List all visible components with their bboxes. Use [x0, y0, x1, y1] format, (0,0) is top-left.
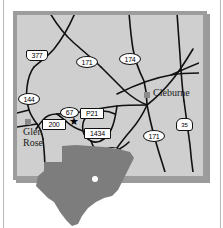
texas-locator-dot [92, 176, 98, 182]
site-star-marker[interactable]: ★ [69, 116, 79, 127]
highway-label-text: P21 [86, 110, 98, 117]
highway-label-text: 171 [81, 59, 92, 66]
highway-label-text: 1434 [90, 130, 105, 137]
highway-label-text: 200 [48, 121, 59, 128]
highway-label-text: 171 [148, 133, 159, 140]
highway-label-sh-171-north[interactable]: 171 [76, 56, 98, 68]
city-marker-cleburne[interactable] [144, 92, 150, 98]
city-label-glen-rose: Glen Rose [23, 126, 43, 148]
city-marker-glen-rose[interactable] [25, 119, 31, 125]
highway-label-us-377[interactable]: 377 [26, 50, 48, 61]
highway-label-text: 144 [23, 96, 34, 103]
highway-label-fm-1434[interactable]: 1434 [84, 128, 111, 139]
road-i35-lower [184, 101, 193, 172]
map-frame: 377 171 174 144 67 P21 200 1434 [13, 11, 207, 180]
page-rule-left [3, 0, 4, 228]
highway-label-text: 377 [31, 52, 42, 59]
highway-label-fm-p21[interactable]: P21 [80, 108, 104, 119]
highway-label-sh-174-south[interactable]: 174 [101, 147, 123, 159]
road-west-stub [17, 110, 29, 113]
highway-label-ih-35[interactable]: 35 [176, 118, 193, 131]
road-site-connector [103, 111, 115, 114]
page-rule-right [220, 0, 221, 228]
highway-label-fm-200[interactable]: 200 [42, 119, 66, 130]
highway-label-fm-144[interactable]: 144 [18, 93, 40, 105]
road-174-south [105, 105, 147, 172]
highway-label-text: 174 [106, 150, 117, 157]
highway-label-text: 174 [124, 56, 135, 63]
map-canvas[interactable]: 377 171 174 144 67 P21 200 1434 [17, 15, 203, 176]
highway-label-text: 35 [181, 122, 187, 128]
map-figure: 377 171 174 144 67 P21 200 1434 [0, 0, 223, 228]
city-label-cleburne: Cleburne [153, 87, 190, 98]
highway-label-sh-174-north[interactable]: 174 [119, 53, 141, 65]
highway-label-sh-171-south[interactable]: 171 [143, 130, 165, 142]
road-144-tail [43, 139, 45, 172]
